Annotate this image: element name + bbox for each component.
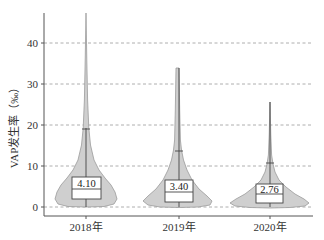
y-axis-label: VAP发生率（‰） [7,82,20,169]
violin-2019: 3.40 [143,68,212,208]
y-tick-label-40: 40 [27,37,39,49]
violin-2020: 2.76 [230,102,309,208]
median-label-2019: 3.40 [170,181,188,192]
y-ticks: 0 10 20 30 40 [27,37,44,213]
y-tick-label-0: 0 [33,201,39,213]
median-label-2018: 4.10 [77,178,95,189]
violin-2018: 4.10 [55,13,117,207]
y-tick-label-10: 10 [27,160,39,172]
median-label-2020: 2.76 [260,184,278,195]
y-tick-label-20: 20 [27,119,39,131]
x-ticks: 2018年 2019年 2020年 [70,216,287,233]
y-tick-label-30: 30 [27,78,39,90]
x-tick-label-2020: 2020年 [254,220,287,233]
violin-chart: 4.10 3.40 2.76 0 10 20 30 40 2018年 [0,0,324,240]
x-tick-label-2018: 2018年 [70,220,103,233]
x-tick-label-2019: 2019年 [163,220,196,233]
